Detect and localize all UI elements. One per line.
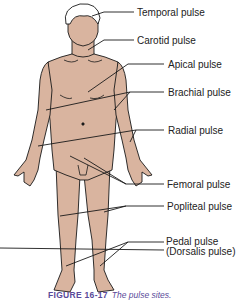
torso [46,48,120,180]
label-carotid: Carotid pulse [137,35,196,46]
caption-text: The pulse sites. [112,290,172,300]
right-leg [54,165,80,292]
figure-caption: FIGURE 16-17The pulse sites. [48,290,171,300]
dorsalis-leader [0,248,164,250]
carotid-leader [88,40,134,50]
label-dorsalis: (Dorsalis pulse) [166,246,235,257]
pedal-leader [66,242,164,266]
caption-number: FIGURE 16-17 [48,290,108,300]
label-radial: Radial pulse [168,125,223,136]
label-popliteal: Popliteal pulse [167,201,232,212]
label-temporal: Temporal pulse [137,7,205,18]
label-femoral: Femoral pulse [167,179,230,190]
left-leg [84,165,114,292]
label-apical: Apical pulse [168,59,222,70]
label-brachial: Brachial pulse [168,87,231,98]
right-arm [14,62,52,186]
left-arm [114,62,152,186]
